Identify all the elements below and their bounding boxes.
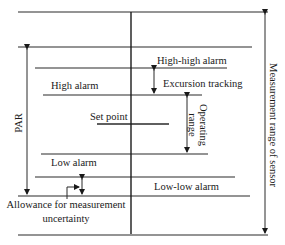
allowance-label-line1: Allowance for measurement [7,199,126,210]
high-high-alarm-label: High-high alarm [157,55,227,66]
alarm-levels-diagram: High-high alarm Excursion tracking High … [0,0,285,245]
operating-range-label-line2: range [187,113,198,137]
set-point-label: Set point [90,111,128,122]
low-low-alarm-label: Low-low alarm [154,181,219,192]
excursion-tracking-label: Excursion tracking [163,78,243,89]
operating-range-label-line1: Operating [198,104,209,147]
measurement-range-label: Measurement range of sensor [268,63,279,187]
allowance-label-line2: uncertainty [42,213,90,224]
high-alarm-label: High alarm [51,80,99,91]
par-label: PAR [13,113,24,132]
low-alarm-label: Low alarm [51,157,97,168]
allowance-pointer [67,187,79,199]
